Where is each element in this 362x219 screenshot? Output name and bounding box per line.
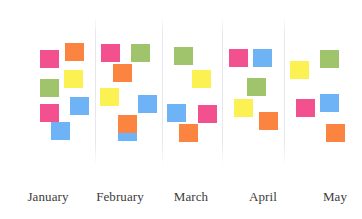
sticky-note-green[interactable] xyxy=(247,78,266,96)
column-divider xyxy=(284,16,285,166)
sticky-note-yellow[interactable] xyxy=(192,70,211,88)
column-divider xyxy=(222,16,223,166)
sticky-note-pink[interactable] xyxy=(198,105,217,123)
column-label-may: May xyxy=(323,189,347,205)
column-label-march: March xyxy=(174,189,208,205)
sticky-note-pink[interactable] xyxy=(40,104,59,122)
sticky-note-green[interactable] xyxy=(40,79,59,97)
sticky-note-blue[interactable] xyxy=(51,122,70,140)
column-divider xyxy=(95,16,96,166)
column-label-january: January xyxy=(27,189,68,205)
column-label-april: April xyxy=(249,189,277,205)
sticky-note-blue[interactable] xyxy=(253,49,272,67)
column-divider xyxy=(162,16,163,166)
sticky-note-pink[interactable] xyxy=(40,50,59,68)
sticky-note-yellow[interactable] xyxy=(64,70,83,88)
sticky-note-yellow[interactable] xyxy=(100,88,119,106)
sticky-note-blue[interactable] xyxy=(70,97,89,115)
sticky-note-pink[interactable] xyxy=(101,44,120,62)
sticky-note-pink[interactable] xyxy=(296,99,315,117)
sticky-note-blue[interactable] xyxy=(167,104,186,122)
sticky-note-orange[interactable] xyxy=(65,43,84,61)
sticky-note-blue[interactable] xyxy=(320,94,339,112)
sticky-note-orange[interactable] xyxy=(179,124,198,142)
sticky-note-yellow[interactable] xyxy=(290,61,309,79)
sticky-note-green[interactable] xyxy=(174,47,193,65)
sticky-note-orange[interactable] xyxy=(118,115,137,133)
sticky-note-orange[interactable] xyxy=(259,112,278,130)
sticky-note-blue[interactable] xyxy=(138,95,157,113)
column-label-february: February xyxy=(96,189,144,205)
sticky-note-yellow[interactable] xyxy=(234,99,253,117)
sticky-note-green[interactable] xyxy=(320,50,339,68)
sticky-note-board: January February March April May xyxy=(0,0,362,219)
sticky-note-orange[interactable] xyxy=(113,64,132,82)
sticky-note-orange[interactable] xyxy=(326,124,345,142)
sticky-note-green[interactable] xyxy=(131,44,150,62)
sticky-note-pink[interactable] xyxy=(229,49,248,67)
